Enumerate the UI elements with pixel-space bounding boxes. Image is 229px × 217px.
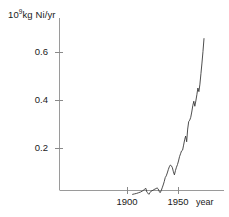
data-series-line	[133, 39, 204, 195]
chart-screenshot: 109kg Ni/yr 0.6 0.4 0.2 1900 1950 year	[0, 0, 229, 217]
plot-area	[0, 0, 229, 217]
